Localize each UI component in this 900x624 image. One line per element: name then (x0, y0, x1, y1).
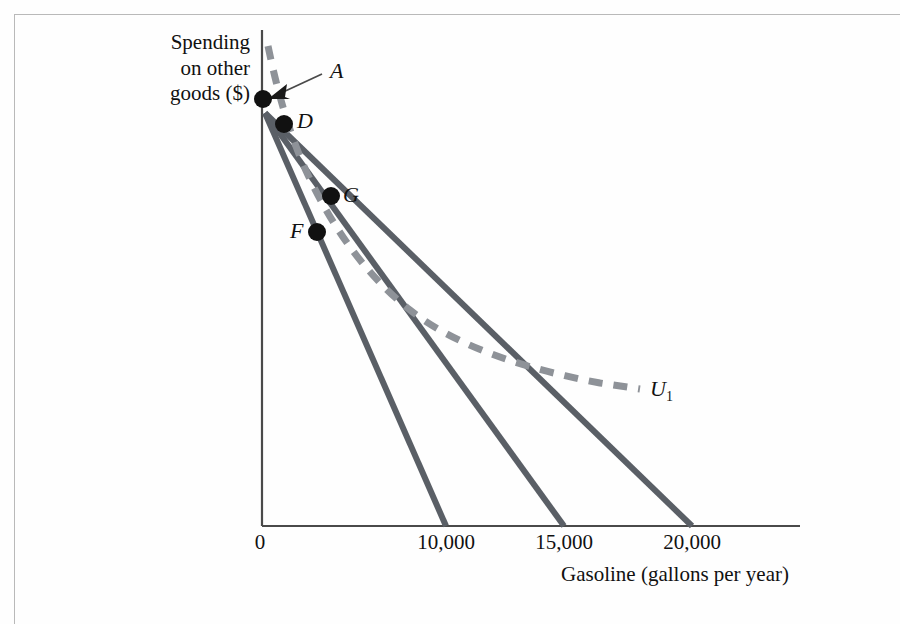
figure-panel: Spending on other goods ($) Gasoline (ga… (0, 0, 900, 624)
point-a-marker (254, 90, 272, 108)
budget-line-flat (265, 113, 692, 526)
point-d-marker (275, 115, 293, 133)
point-label-g: G (343, 182, 359, 208)
point-label-a: A (330, 58, 343, 84)
curve-label-u1-subscript: 1 (666, 389, 673, 404)
curve-label-u1-text: U (650, 376, 666, 401)
x-tick-label-0: 0 (240, 530, 280, 555)
point-label-d: D (297, 108, 313, 134)
a-leader-line (281, 74, 322, 93)
x-tick-label-15000: 15,000 (504, 530, 624, 555)
point-label-f: F (290, 218, 303, 244)
x-tick-label-10000: 10,000 (386, 530, 506, 555)
y-axis-title: Spending on other goods ($) (128, 30, 250, 107)
budget-line-steep (265, 113, 446, 526)
curve-label-u1: U1 (650, 376, 673, 405)
point-g-marker (322, 187, 340, 205)
indifference-curve-u1 (268, 46, 640, 389)
x-axis-title: Gasoline (gallons per year) (520, 562, 830, 588)
point-f-marker (308, 223, 326, 241)
x-tick-label-20000: 20,000 (632, 530, 752, 555)
